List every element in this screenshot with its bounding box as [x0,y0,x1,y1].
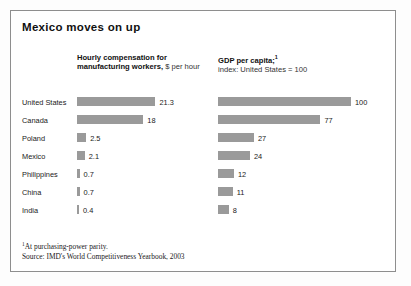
bar-gdp [218,205,229,214]
bar-value-gdp: 12 [238,170,246,179]
bar-value-compensation: 2.1 [89,152,99,161]
right-heading-line1: GDP per capita; [218,56,275,65]
left-column-heading: Hourly compensation for manufacturing wo… [77,53,200,72]
bar-value-gdp: 8 [233,206,237,215]
bar-compensation [77,133,86,142]
bar-compensation [77,115,143,124]
category-label: United States [22,98,66,107]
right-heading-line2: index: United States = 100 [218,65,307,74]
chart-row: India0.48 [11,202,397,220]
left-heading-line2-light: $ per hour [163,62,200,71]
bar-gdp [218,169,234,178]
bar-compensation [77,151,85,160]
bar-value-gdp: 77 [324,116,332,125]
bar-compensation [77,169,80,178]
chart-row: United States21.3100 [11,94,397,112]
bar-value-compensation: 0.7 [84,170,94,179]
bar-gdp [218,151,250,160]
category-label: Philippines [22,170,58,179]
bar-compensation [77,97,155,106]
chart-row: Poland2.527 [11,130,397,148]
bar-value-compensation: 0.7 [84,188,94,197]
bar-gdp [218,115,320,124]
category-label: Canada [22,116,48,125]
chart-screenshot: Mexico moves on up Hourly compensation f… [0,0,411,286]
bar-value-gdp: 27 [258,134,266,143]
footnote-note: 1At purchasing-power parity. [22,239,185,252]
right-heading-footnote-marker: 1 [275,54,278,60]
bar-gdp [218,97,351,106]
right-column-heading: GDP per capita;1 index: United States = … [218,53,307,74]
chart-row: Philippines0.712 [11,166,397,184]
bar-value-gdp: 24 [254,152,262,161]
category-label: Mexico [22,152,45,161]
bar-value-compensation: 2.5 [90,134,100,143]
bar-value-gdp: 11 [237,188,245,197]
source-line: Source: IMD's World Competitiveness Year… [22,252,185,262]
bar-compensation [77,187,80,196]
bar-value-compensation: 18 [147,116,155,125]
category-label: China [22,188,41,197]
bar-gdp [218,187,233,196]
chart-row: China0.711 [11,184,397,202]
bar-value-gdp: 100 [355,98,367,107]
left-heading-line2-bold: manufacturing workers, [77,62,163,71]
footnotes: 1At purchasing-power parity. Source: IMD… [22,239,185,262]
footnote-text: At purchasing-power parity. [25,242,108,251]
bar-gdp [218,133,254,142]
left-heading-line1: Hourly compensation for [77,53,167,62]
category-label: India [22,206,38,215]
bar-value-compensation: 21.3 [159,98,173,107]
chart-panel: Mexico moves on up Hourly compensation f… [10,10,396,272]
chart-title: Mexico moves on up [22,21,141,33]
chart-row: Canada1877 [11,112,397,130]
chart-row: Mexico2.124 [11,148,397,166]
chart-rows: United States21.3100Canada1877Poland2.52… [11,94,397,220]
category-label: Poland [22,134,45,143]
bar-compensation [77,205,79,214]
bar-value-compensation: 0.4 [83,206,93,215]
